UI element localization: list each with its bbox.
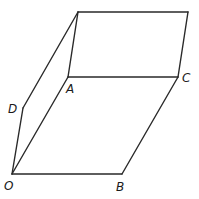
label-d: D: [8, 102, 17, 116]
label-o: O: [4, 179, 13, 193]
label-b: B: [116, 180, 124, 194]
edge-bc: [122, 77, 178, 174]
edges: [12, 12, 188, 174]
geometry-diagram: O B C A D: [0, 0, 199, 199]
vertex-labels: O B C A D: [4, 71, 191, 194]
label-a: A: [65, 82, 74, 96]
label-c: C: [182, 71, 191, 85]
edge-fc: [178, 12, 188, 77]
